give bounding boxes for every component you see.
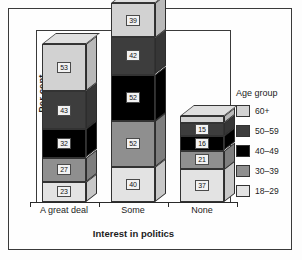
bar-segment-face: 27 [43, 159, 85, 181]
bar-segment: 39 [111, 3, 155, 38]
legend-item: 50–59 [236, 125, 298, 137]
bar-segment: 52 [111, 75, 155, 121]
bar-value-label: 37 [195, 180, 208, 191]
bar-value-label: 32 [57, 138, 70, 149]
bar-segment-face: 52 [112, 76, 154, 120]
bar-value-label: 40 [126, 179, 139, 190]
legend-swatch [236, 125, 250, 137]
bar-value-label: 42 [126, 50, 139, 61]
bar-segment: 43 [42, 91, 86, 129]
bar-value-label: 23 [57, 186, 70, 197]
bar-column: 37211615 [180, 105, 235, 202]
legend-items: 60+50–5940–4930–3918–29 [236, 105, 298, 197]
bar-column: 4052524239 [111, 0, 166, 202]
x-axis-line [30, 202, 238, 203]
legend-swatch [236, 145, 250, 157]
bar-segment: 37 [180, 169, 224, 202]
bar-segment [180, 116, 224, 123]
bar-value-label: 15 [195, 124, 208, 135]
legend-item: 30–39 [236, 165, 298, 177]
legend-swatch [236, 185, 250, 197]
bar-segment-face: 42 [112, 38, 154, 73]
bar-segment: 23 [42, 182, 86, 202]
bar-value-label: 43 [57, 105, 70, 116]
bar-value-label: 27 [57, 164, 70, 175]
bar-segment-face: 53 [43, 45, 85, 90]
bar-segment-face: 23 [43, 183, 85, 201]
bar-value-label: 52 [126, 92, 139, 103]
legend-swatch [236, 105, 250, 117]
bar-segment-side [86, 36, 97, 91]
legend-item: 18–29 [236, 185, 298, 197]
bar-segment: 27 [42, 158, 86, 182]
legend-item-label: 40–49 [255, 146, 279, 156]
legend-item-label: 60+ [255, 106, 269, 116]
x-axis-title: Interest in politics [36, 228, 231, 239]
bar-segment-side [155, 66, 166, 121]
bar-segment-face: 40 [112, 168, 154, 201]
bar-segment: 15 [180, 123, 224, 136]
bar-segment-face: 15 [181, 124, 223, 135]
bar-segment: 21 [180, 151, 224, 170]
bar-column: 2327324353 [42, 33, 97, 202]
bar-segment: 42 [111, 37, 155, 74]
bar-segment-face: 21 [181, 152, 223, 169]
bar-segment-face: 37 [181, 170, 223, 201]
legend-swatch [236, 165, 250, 177]
bar-segment: 16 [180, 136, 224, 150]
legend-item-label: 30–39 [255, 166, 279, 176]
bar-segment: 53 [42, 44, 86, 91]
bar-segment: 32 [42, 129, 86, 157]
bar-segment-face: 32 [43, 130, 85, 156]
bar-segment-side [155, 112, 166, 167]
legend-item: 60+ [236, 105, 298, 117]
legend-item: 40–49 [236, 145, 298, 157]
bar-segment: 40 [111, 167, 155, 202]
bar-value-label: 21 [195, 154, 208, 165]
bar-value-label: 52 [126, 138, 139, 149]
bar-segment-face: 43 [43, 92, 85, 128]
x-axis-tick-label: None [157, 205, 247, 215]
bar-segment: 52 [111, 121, 155, 167]
legend-title: Age group [236, 88, 298, 98]
legend-item-label: 50–59 [255, 126, 279, 136]
legend-item-label: 18–29 [255, 186, 279, 196]
legend: Age group 60+50–5940–4930–3918–29 [236, 88, 298, 205]
bar-value-label: 39 [126, 15, 139, 26]
bar-value-label: 16 [195, 138, 208, 149]
x-axis-tick-labels: A great dealSomeNone [30, 205, 238, 221]
bar-segment-face: 52 [112, 122, 154, 166]
chart-root: Per cent 2327324353405252423937211615 A … [0, 0, 302, 260]
bar-value-label: 53 [57, 62, 70, 73]
bar-segment-face: 39 [112, 4, 154, 37]
bar-segment-face: 16 [181, 137, 223, 149]
